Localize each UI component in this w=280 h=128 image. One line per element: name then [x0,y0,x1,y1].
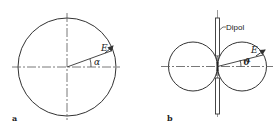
angle-label-alpha: α [94,57,100,67]
vector-label-e: E [100,43,108,53]
panel-b: Dipol E ϑ b [161,10,273,123]
radius-vector [67,51,111,67]
angle-arc [90,59,91,67]
diagram-canvas: E α a Dipol E ϑ b [0,0,280,128]
dipole-rod-upper [216,18,220,56]
panel-label-a: a [12,113,17,123]
panel-a: E α a [12,13,120,123]
angle-label-theta: ϑ [243,57,251,67]
dipole-rod-lower [216,78,220,114]
dipole-label: Dipol [226,23,244,32]
vector-label-e: E [250,45,258,55]
panel-label-b: b [167,113,173,123]
